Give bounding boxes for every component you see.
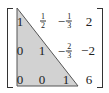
fraction-denominator: 2	[41, 22, 45, 30]
cell-r1c2: − 23	[58, 43, 72, 60]
cell-r1c3: −2	[81, 44, 95, 57]
cell-r0c1: 12	[40, 13, 46, 30]
cell-r2c2: 1	[63, 73, 70, 86]
cell-r1c1: 1	[39, 44, 46, 57]
minus-sign: −	[58, 43, 65, 59]
fraction-denominator: 3	[67, 52, 71, 60]
cell-r2c0: 0	[17, 73, 24, 86]
cell-r0c0: 1	[17, 15, 24, 28]
right-bracket	[97, 8, 103, 88]
minus-sign: −	[58, 13, 65, 29]
cell-r2c1: 0	[39, 73, 46, 86]
cell-r1c0: 0	[17, 44, 24, 57]
left-bracket	[7, 8, 13, 88]
cell-r0c2: − 13	[58, 13, 72, 30]
cell-r2c3: 6	[86, 73, 93, 86]
cell-r0c3: 2	[86, 15, 93, 28]
fraction-denominator: 3	[67, 22, 71, 30]
